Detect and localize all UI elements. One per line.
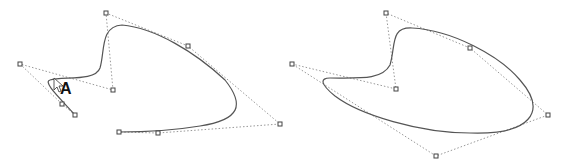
control-point[interactable] [278, 122, 282, 126]
control-point[interactable] [104, 11, 108, 15]
control-polygon [292, 13, 548, 156]
spline-diagram [0, 0, 561, 166]
control-points[interactable] [18, 11, 282, 135]
control-point[interactable] [73, 113, 77, 117]
control-point[interactable] [111, 88, 115, 92]
point-label-a: A [60, 80, 72, 98]
control-point[interactable] [18, 62, 22, 66]
control-point[interactable] [290, 62, 294, 66]
control-polygon [20, 13, 280, 133]
left-figure [18, 11, 282, 135]
control-point[interactable] [60, 102, 64, 106]
control-point[interactable] [117, 130, 121, 134]
control-points[interactable] [290, 11, 550, 158]
control-point[interactable] [546, 113, 550, 117]
control-point[interactable] [384, 11, 388, 15]
right-figure [290, 11, 550, 158]
control-point[interactable] [394, 87, 398, 91]
control-point[interactable] [468, 46, 472, 50]
control-point[interactable] [186, 44, 190, 48]
control-point[interactable] [434, 154, 438, 158]
control-point[interactable] [156, 131, 160, 135]
closed-spline-curve [323, 28, 533, 133]
